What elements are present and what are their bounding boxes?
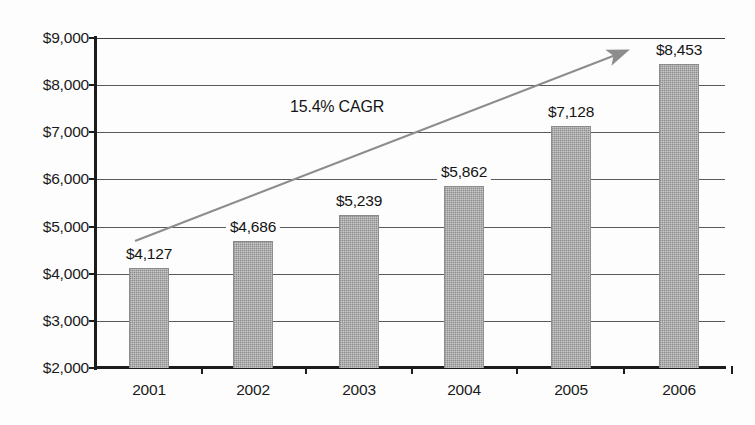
y-axis-label: $4,000 xyxy=(43,265,89,283)
bar-value-label: $4,686 xyxy=(226,219,280,237)
y-axis-tick xyxy=(89,226,97,228)
y-axis-label: $2,000 xyxy=(43,359,89,377)
x-axis-tick xyxy=(305,366,307,374)
y-axis-tick xyxy=(89,320,97,322)
x-axis-label: 2005 xyxy=(554,381,588,399)
gridline xyxy=(96,179,725,180)
bar[interactable] xyxy=(129,268,169,368)
x-axis-tick xyxy=(516,366,518,374)
bar-value-label: $8,453 xyxy=(652,41,706,59)
y-axis-tick xyxy=(89,367,97,369)
x-axis-label: 2001 xyxy=(132,381,166,399)
y-axis-label: $9,000 xyxy=(43,29,89,47)
gridline xyxy=(96,38,725,39)
y-axis-tick xyxy=(89,273,97,275)
bar-value-label: $5,862 xyxy=(437,163,491,181)
plot-area: $2,000$3,000$4,000$5,000$6,000$7,000$8,0… xyxy=(96,38,725,368)
cagr-annotation: 15.4% CAGR xyxy=(286,97,388,117)
gridline xyxy=(96,85,725,86)
y-axis-tick xyxy=(89,131,97,133)
gridline xyxy=(96,132,725,133)
x-axis-label: 2003 xyxy=(342,381,376,399)
x-axis-label: 2004 xyxy=(447,381,481,399)
gridline xyxy=(96,227,725,228)
x-axis-tick xyxy=(731,366,733,374)
y-axis-label: $3,000 xyxy=(43,312,89,330)
y-axis-tick xyxy=(89,37,97,39)
x-axis-label: 2002 xyxy=(236,381,270,399)
bar[interactable] xyxy=(551,126,591,368)
y-axis-label: $6,000 xyxy=(43,170,89,188)
x-axis-tick xyxy=(201,366,203,374)
y-axis-label: $7,000 xyxy=(43,123,89,141)
x-axis-label: 2006 xyxy=(662,381,696,399)
bar-chart: $2,000$3,000$4,000$5,000$6,000$7,000$8,0… xyxy=(0,0,755,425)
x-axis-tick xyxy=(411,366,413,374)
bar[interactable] xyxy=(444,186,484,368)
y-axis-label: $5,000 xyxy=(43,218,89,236)
y-axis-tick xyxy=(89,178,97,180)
bar-value-label: $4,127 xyxy=(122,245,176,263)
y-axis-label: $8,000 xyxy=(43,76,89,94)
bar[interactable] xyxy=(659,64,699,368)
gridline xyxy=(96,274,725,275)
bar-value-label: $5,239 xyxy=(332,192,386,210)
x-axis-tick xyxy=(623,366,625,374)
y-axis-tick xyxy=(89,84,97,86)
bar[interactable] xyxy=(233,241,273,368)
bar-value-label: $7,128 xyxy=(544,103,598,121)
bar[interactable] xyxy=(339,215,379,368)
gridline xyxy=(96,321,725,322)
